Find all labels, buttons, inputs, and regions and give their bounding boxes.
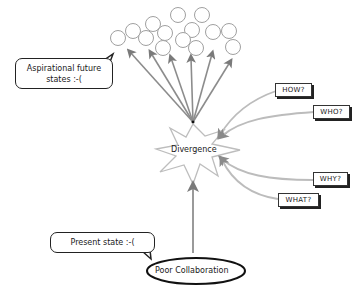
future-states-bubble: Aspirational future states :-( xyxy=(15,58,113,89)
question-who: WHO? xyxy=(313,105,350,119)
divergence-label: Divergence xyxy=(171,145,217,154)
present-state-label: Present state :-( xyxy=(70,238,134,247)
question-arrows xyxy=(220,91,314,199)
present-state-bubble: Present state :-( xyxy=(50,232,155,253)
divergence-star xyxy=(156,124,240,184)
question-what: WHAT? xyxy=(278,193,319,207)
future-states-line1: Aspirational future xyxy=(16,63,112,74)
question-why: WHY? xyxy=(313,172,348,186)
future-state-circles xyxy=(111,8,241,56)
question-how: HOW? xyxy=(275,83,312,97)
poor-collaboration-label: Poor Collaboration xyxy=(155,266,228,275)
future-states-line2: states :-( xyxy=(16,74,112,85)
divergence-arrows xyxy=(130,52,230,122)
